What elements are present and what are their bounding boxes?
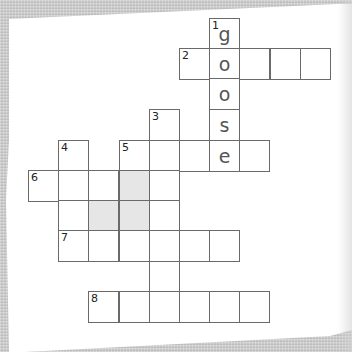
crossword-cell[interactable]: [270, 48, 301, 80]
crossword-cell[interactable]: [149, 291, 180, 323]
crossword-cell[interactable]: [239, 48, 270, 80]
crossword-cell[interactable]: [88, 170, 119, 202]
crossword-cell[interactable]: 5: [119, 140, 150, 172]
crossword-cell[interactable]: s: [209, 109, 240, 141]
crossword-cell[interactable]: 8: [88, 291, 119, 323]
crossword-cell[interactable]: [179, 230, 210, 262]
crossword-grid: 1g2oo3s45e678: [0, 0, 352, 352]
shaded-cell: [119, 170, 150, 202]
cell-letter: o: [210, 52, 239, 76]
cell-letter: s: [210, 113, 239, 137]
crossword-cell[interactable]: o: [209, 48, 240, 80]
crossword-cell[interactable]: [149, 140, 180, 172]
crossword-cell[interactable]: 3: [149, 109, 180, 141]
crossword-cell[interactable]: 2: [179, 48, 210, 80]
clue-number: 5: [122, 142, 129, 153]
crossword-cell[interactable]: [239, 140, 270, 172]
crossword-cell[interactable]: [239, 291, 270, 323]
crossword-cell[interactable]: [300, 48, 331, 80]
crossword-cell[interactable]: 4: [58, 140, 89, 172]
crossword-cell[interactable]: [88, 230, 119, 262]
crossword-cell[interactable]: [119, 230, 150, 262]
cell-letter: g: [210, 22, 239, 46]
crossword-cell[interactable]: [179, 140, 210, 172]
shaded-cell: [119, 200, 150, 232]
clue-number: 6: [31, 172, 38, 183]
crossword-cell[interactable]: [209, 230, 240, 262]
crossword-cell[interactable]: [149, 230, 180, 262]
cell-letter: e: [210, 144, 239, 168]
crossword-cell[interactable]: [149, 261, 180, 293]
crossword-cell[interactable]: [149, 170, 180, 202]
crossword-cell[interactable]: o: [209, 78, 240, 110]
cell-letter: o: [210, 82, 239, 106]
crossword-cell[interactable]: [58, 170, 89, 202]
crossword-cell[interactable]: 1g: [209, 18, 240, 50]
crossword-cell[interactable]: 6: [28, 170, 59, 202]
clue-number: 2: [182, 50, 189, 61]
clue-number: 8: [91, 293, 98, 304]
clue-number: 4: [61, 142, 68, 153]
crossword-cell[interactable]: 7: [58, 230, 89, 262]
crossword-cell[interactable]: [209, 291, 240, 323]
crossword-cell[interactable]: e: [209, 140, 240, 172]
crossword-cell[interactable]: [149, 200, 180, 232]
clue-number: 3: [152, 111, 159, 122]
crossword-cell[interactable]: [58, 200, 89, 232]
crossword-cell[interactable]: [119, 291, 150, 323]
crossword-cell[interactable]: [179, 291, 210, 323]
clue-number: 7: [61, 232, 68, 243]
shaded-cell: [88, 200, 119, 232]
